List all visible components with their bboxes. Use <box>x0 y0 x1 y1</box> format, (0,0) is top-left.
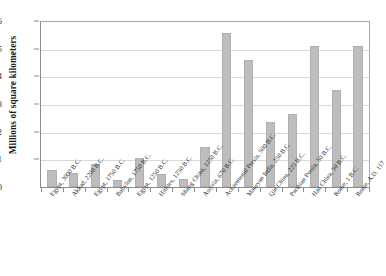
x-tick-mark <box>150 188 151 192</box>
x-tick-mark <box>63 188 64 192</box>
bar <box>244 60 253 187</box>
x-tick-mark <box>303 188 304 192</box>
x-tick-mark <box>172 188 173 192</box>
bar <box>179 179 188 187</box>
y-axis-title-text: Millions of square kilometers <box>8 36 18 155</box>
x-tick-mark <box>194 188 195 192</box>
y-tick-label: 2 <box>0 127 2 136</box>
x-tick-mark <box>325 188 326 192</box>
bar <box>288 114 297 187</box>
bars-group <box>41 21 369 187</box>
y-tick-label: 6 <box>0 17 2 26</box>
x-tick-mark <box>107 188 108 192</box>
bar <box>200 147 209 187</box>
y-tick-mark <box>34 48 39 49</box>
bar <box>69 173 78 187</box>
bar <box>47 170 56 187</box>
bar <box>91 164 100 187</box>
y-tick-label: 4 <box>0 72 2 81</box>
bar <box>353 46 362 187</box>
x-tick-mark <box>369 188 370 192</box>
y-tick-mark <box>34 159 39 160</box>
x-tick-mark <box>282 188 283 192</box>
y-tick-label: 0 <box>0 183 2 192</box>
y-tick-mark <box>34 76 39 77</box>
bar <box>135 158 144 187</box>
y-tick-label: 1 <box>0 155 2 164</box>
bar <box>332 90 341 187</box>
y-axis-title: Millions of square kilometers <box>0 0 26 190</box>
x-tick-mark <box>85 188 86 192</box>
x-tick-mark <box>347 188 348 192</box>
x-tick-mark <box>128 188 129 192</box>
y-tick-mark <box>34 21 39 22</box>
x-tick-mark <box>238 188 239 192</box>
bar <box>266 122 275 187</box>
x-tick-mark <box>41 188 42 192</box>
bar <box>222 33 231 187</box>
y-tick-mark <box>34 131 39 132</box>
y-tick-label: 5 <box>0 44 2 53</box>
bar <box>157 174 166 187</box>
y-tick-label: 3 <box>0 100 2 109</box>
bar <box>113 180 122 187</box>
x-tick-mark <box>216 188 217 192</box>
bar <box>310 46 319 187</box>
y-tick-mark <box>34 104 39 105</box>
x-tick-mark <box>260 188 261 192</box>
